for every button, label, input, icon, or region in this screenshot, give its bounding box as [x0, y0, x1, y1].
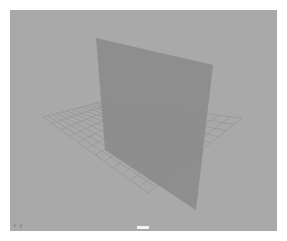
plane-mesh[interactable] [96, 38, 213, 210]
axis-indicator: x y [13, 222, 24, 228]
camera-name-label: persp [137, 226, 149, 229]
scene-canvas[interactable] [10, 10, 277, 231]
3d-viewport[interactable]: x y persp [10, 10, 277, 231]
